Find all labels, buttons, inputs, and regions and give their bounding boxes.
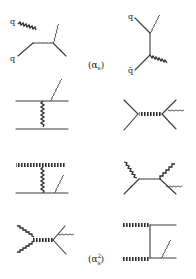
diagram-7	[17, 226, 74, 254]
gluon-propagator	[33, 238, 53, 242]
gluon-exchange-line	[41, 101, 44, 127]
quark-line	[53, 43, 66, 56]
photon-line	[168, 110, 184, 111]
antiquark-line	[135, 55, 150, 70]
gluon-line	[160, 164, 175, 179]
gluon-exchange-line	[41, 167, 44, 193]
label-d2-top: q	[128, 12, 133, 21]
gluon-line	[17, 226, 34, 237]
gluon-line	[17, 241, 34, 252]
quark-line	[162, 100, 176, 114]
label-d2-bottom: q̄	[128, 66, 133, 75]
diagram-8	[123, 223, 176, 261]
diagram-6	[124, 162, 175, 179]
photon-line	[50, 79, 62, 101]
quark-line	[124, 179, 139, 194]
quark-line	[18, 43, 33, 56]
quark-line	[124, 100, 138, 114]
diagram-1: q q	[10, 17, 66, 63]
photon-line	[58, 234, 74, 235]
diagram-4	[124, 100, 184, 130]
gluon-line	[16, 163, 66, 167]
feynman-diagram-figure: q q q q̄ (αs)	[0, 0, 196, 279]
gluon-line	[123, 223, 149, 227]
gluon-line	[123, 257, 149, 261]
diagram-svg: q q q q̄ (αs)	[0, 0, 196, 279]
order-label-alpha-s-squared: (α2s)	[88, 252, 104, 266]
quark-line	[53, 240, 66, 254]
gluon-line	[124, 162, 137, 178]
quark-line	[162, 114, 176, 129]
gluon-line	[18, 22, 36, 30]
quark-line	[53, 226, 65, 240]
quark-line	[124, 114, 138, 130]
diagram-6-lower	[124, 179, 182, 194]
gluon-propagator	[139, 112, 161, 116]
photon-line	[161, 240, 171, 258]
label-d1-top: q	[10, 17, 15, 26]
gluon-line	[150, 55, 167, 63]
label-d1-bottom: q	[10, 54, 15, 63]
diagram-5	[16, 163, 66, 193]
photon-line	[54, 175, 64, 193]
diagram-3	[16, 79, 68, 129]
diagram-2: q q̄	[128, 12, 167, 75]
photon-line	[150, 15, 160, 33]
quark-line	[135, 18, 150, 33]
order-label-alpha-s: (αs)	[88, 60, 104, 71]
photon-line	[53, 24, 59, 43]
